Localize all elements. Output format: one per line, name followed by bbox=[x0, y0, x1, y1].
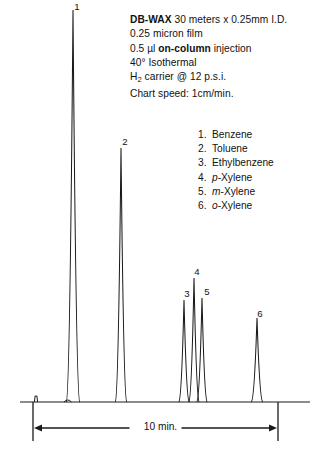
annotation-layer: DB-WAX 30 meters x 0.25mm I.D. 0.25 micr… bbox=[0, 0, 321, 451]
injection-volume: 0.5 µl bbox=[130, 43, 158, 54]
column-name: DB-WAX bbox=[130, 14, 172, 25]
compound-number: 3. bbox=[198, 156, 212, 170]
condition-column: DB-WAX 30 meters x 0.25mm I.D. bbox=[130, 13, 318, 27]
chromatogram-figure: DB-WAX 30 meters x 0.25mm I.D. 0.25 micr… bbox=[0, 0, 321, 451]
compound-item: 5.m-Xylene bbox=[198, 185, 274, 199]
condition-chart-speed: Chart speed: 1cm/min. bbox=[130, 87, 318, 101]
peak-label-4: 4 bbox=[190, 266, 204, 277]
condition-film: 0.25 micron film bbox=[130, 27, 318, 41]
compound-name: Toluene bbox=[212, 143, 248, 154]
compound-legend: 1.Benzene2.Toluene3.Ethylbenzene4.p-Xyle… bbox=[198, 128, 274, 213]
compound-item: 6.o-Xylene bbox=[198, 199, 274, 213]
condition-carrier: H2 carrier @ 12 p.s.i. bbox=[130, 70, 318, 87]
compound-item: 1.Benzene bbox=[198, 128, 274, 142]
injection-suffix: injection bbox=[211, 43, 252, 54]
compound-name: Ethylbenzene bbox=[212, 157, 274, 168]
condition-injection: 0.5 µl on-column injection bbox=[130, 42, 318, 56]
scale-bar-caption: 10 min. bbox=[0, 421, 321, 432]
compound-number: 1. bbox=[198, 128, 212, 142]
compound-number: 4. bbox=[198, 171, 212, 185]
injection-mode: on-column bbox=[158, 43, 211, 54]
peak-label-1: 1 bbox=[70, 1, 84, 12]
compound-name: -Xylene bbox=[218, 200, 253, 211]
compound-item: 4.p-Xylene bbox=[198, 171, 274, 185]
compound-name: -Xylene bbox=[218, 172, 253, 183]
compound-number: 2. bbox=[198, 142, 212, 156]
condition-temperature: 40° Isothermal bbox=[130, 56, 318, 70]
compound-isomer-prefix: m bbox=[212, 186, 221, 197]
conditions-block: DB-WAX 30 meters x 0.25mm I.D. 0.25 micr… bbox=[130, 13, 318, 102]
compound-number: 5. bbox=[198, 185, 212, 199]
peak-label-6: 6 bbox=[253, 308, 267, 319]
column-detail: 30 meters x 0.25mm I.D. bbox=[172, 14, 288, 25]
compound-item: 3.Ethylbenzene bbox=[198, 156, 274, 170]
compound-name: -Xylene bbox=[221, 186, 256, 197]
peak-label-3: 3 bbox=[180, 288, 194, 299]
peak-label-2: 2 bbox=[118, 136, 132, 147]
compound-item: 2.Toluene bbox=[198, 142, 274, 156]
peak-label-5: 5 bbox=[200, 286, 214, 297]
carrier-pressure: carrier @ 12 p.s.i. bbox=[142, 71, 226, 82]
compound-number: 6. bbox=[198, 199, 212, 213]
compound-name: Benzene bbox=[212, 129, 252, 140]
